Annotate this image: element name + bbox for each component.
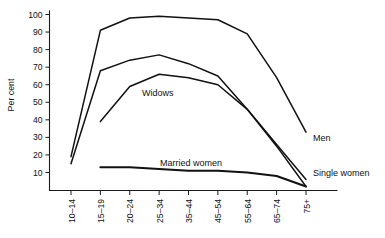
chart-container: Per cent 100908070605040302010 10–1415–1… <box>0 0 385 238</box>
x-tick-label-5: 45–54 <box>213 199 223 223</box>
x-tick-label-7: 65–74 <box>272 199 282 223</box>
series-label-widows: Widows <box>142 88 174 98</box>
y-axis-title: Per cent <box>6 78 16 111</box>
y-axis-title-text: Per cent <box>6 78 16 111</box>
y-tick-label-20: 20 <box>33 150 43 160</box>
series-label-married-women: Married women <box>160 158 222 168</box>
x-tick-label-1: 15–19 <box>96 199 106 223</box>
series-label-single-women: Single women <box>313 168 370 178</box>
x-tick-label-2: 20–24 <box>125 199 135 223</box>
y-tick-label-10: 10 <box>33 168 43 178</box>
y-tick-label-90: 90 <box>33 27 43 37</box>
y-tick-label-80: 80 <box>33 45 43 55</box>
x-tick-label-8: 75+ <box>302 199 312 214</box>
x-tick-label-6: 55–64 <box>243 199 253 223</box>
y-tick-label-100: 100 <box>28 10 43 20</box>
y-tick-label-30: 30 <box>33 132 43 142</box>
x-tick-label-3: 25–34 <box>155 199 165 223</box>
y-tick-label-40: 40 <box>33 115 43 125</box>
x-tick-label-4: 35–44 <box>184 199 194 223</box>
line-chart: Per cent 100908070605040302010 10–1415–1… <box>0 0 385 238</box>
y-tick-label-70: 70 <box>33 62 43 72</box>
series-label-men: Men <box>313 133 331 143</box>
x-tick-label-0: 10–14 <box>67 199 77 223</box>
y-tick-label-60: 60 <box>33 80 43 90</box>
y-tick-label-50: 50 <box>33 97 43 107</box>
